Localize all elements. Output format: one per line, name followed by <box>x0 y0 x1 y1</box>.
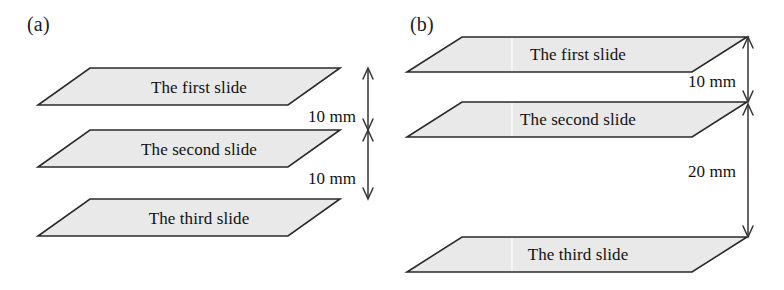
figure-root: (a) The first slide The second slide The… <box>0 0 784 290</box>
slide-label-first: The first slide <box>151 78 247 98</box>
slide-label-second: The second slide <box>520 110 636 130</box>
slide-label-first: The first slide <box>530 45 626 65</box>
dimension-label-2: 10 mm <box>308 169 356 189</box>
slide-label-third: The third slide <box>528 245 629 265</box>
slide-label-third: The third slide <box>149 209 250 229</box>
panel-a: (a) The first slide The second slide The… <box>0 0 392 290</box>
panel-b: (b) The first slide The second slide The… <box>392 0 784 290</box>
slide-label-second: The second slide <box>141 140 257 160</box>
dimension-label-1: 10 mm <box>308 107 356 127</box>
dimension-label-1: 10 mm <box>688 72 736 92</box>
dimension-label-2: 20 mm <box>688 162 736 182</box>
